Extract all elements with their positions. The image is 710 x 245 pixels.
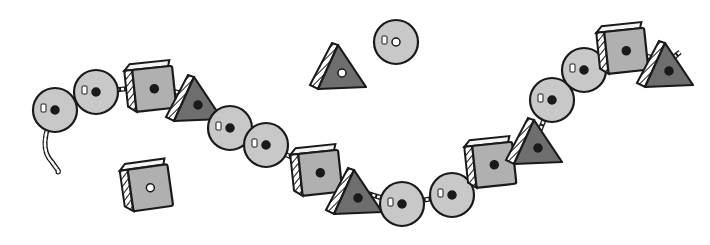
square-bead <box>596 22 649 75</box>
square-bead <box>124 60 177 113</box>
round-bead <box>33 88 77 132</box>
round-bead <box>244 123 288 167</box>
triangle-bead <box>506 118 562 164</box>
round-bead <box>380 182 424 226</box>
square-bead <box>290 144 343 197</box>
round-bead <box>74 70 118 114</box>
loose-round-bead <box>374 20 418 64</box>
loose-square-bead <box>119 158 173 212</box>
loose-triangle-bead <box>310 43 366 89</box>
bead-illustration <box>0 0 710 245</box>
